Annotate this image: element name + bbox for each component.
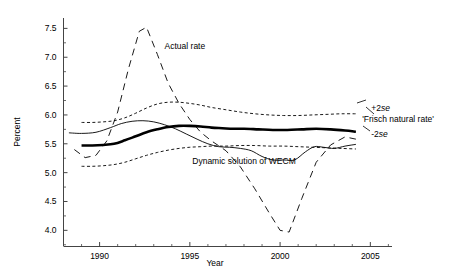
chart-figure: 4.04.55.05.56.06.57.07.5 199019952000200… (0, 0, 450, 277)
x-tick-label: 2000 (271, 251, 290, 261)
annotation-actual-rate: Actual rate (165, 41, 206, 51)
x-tick-label: 1990 (90, 251, 109, 261)
y-tick-label: 6.0 (45, 110, 57, 120)
y-tick-label: 4.0 (45, 225, 57, 235)
x-axis-title: Year (206, 258, 223, 268)
y-tick-label: 5.5 (45, 139, 57, 149)
annotation-dynamic-solution-of-wecm: Dynamic solution of WECM (192, 156, 295, 166)
annotation-2se: -2se (371, 129, 388, 139)
y-tick-label: 5.0 (45, 168, 57, 178)
annotation-frisch-natural-rate: 'Frisch natural rate' (362, 114, 434, 124)
annotation-2se: +2se (371, 103, 390, 113)
y-tick-label: 7.0 (45, 52, 57, 62)
y-tick-label: 6.5 (45, 81, 57, 91)
x-tick-label: 2005 (361, 251, 380, 261)
x-tick-label: 1995 (180, 251, 199, 261)
unemployment-rate-line-chart: 4.04.55.05.56.06.57.07.5 199019952000200… (0, 0, 450, 277)
y-tick-label: 4.5 (45, 196, 57, 206)
y-tick-label: 7.5 (45, 23, 57, 33)
y-axis-title: Percent (12, 117, 22, 147)
